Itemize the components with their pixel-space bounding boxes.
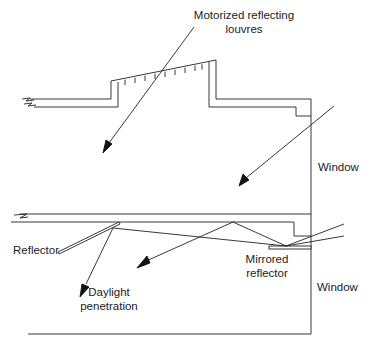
arrow-head	[103, 140, 112, 153]
daylight-label-line-2: penetration	[76, 299, 142, 313]
break-symbol-upper-2	[24, 103, 36, 106]
roof-outer-line	[30, 60, 311, 117]
mirrored-reflector-label: Mirrored reflector	[237, 252, 297, 280]
break-symbol-upper	[22, 98, 34, 101]
louvres-label-line-2: louvres	[184, 22, 304, 36]
upper-roof-section	[22, 60, 311, 117]
window-upper-label: Window	[318, 160, 359, 174]
daylighting-diagram: Motorized reflecting louvres Window Refl…	[0, 0, 369, 344]
mirrored-reflector-plate	[269, 246, 311, 249]
reflector-label: Reflector	[13, 243, 59, 257]
louvres-label-line-1: Motorized reflecting	[184, 8, 304, 22]
louvres-label: Motorized reflecting louvres	[184, 8, 304, 36]
arrow-head	[239, 174, 249, 186]
mirrored-reflector-label-line-2: reflector	[237, 266, 297, 280]
upper-window-light-ray	[239, 106, 334, 186]
reflector-plate	[58, 222, 120, 254]
roof-inner-left	[34, 82, 118, 107]
diagram-drawing	[0, 0, 369, 344]
daylight-label-line-1: Daylight	[76, 285, 142, 299]
mirrored-reflector-label-line-1: Mirrored	[237, 252, 297, 266]
louvre-blades	[125, 64, 202, 85]
daylight-label: Daylight penetration	[76, 285, 142, 313]
window-lower-label: Window	[317, 280, 358, 294]
break-symbol-lower	[14, 214, 28, 218]
roof-inner-right	[209, 62, 311, 116]
arrow-head	[137, 256, 150, 268]
louvre-light-ray	[103, 27, 194, 153]
